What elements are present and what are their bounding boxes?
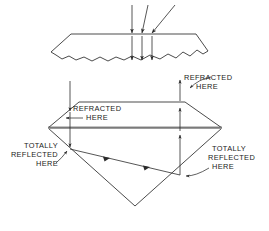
label-totally-reflected-right-line3: HERE: [212, 162, 234, 171]
diamond-refraction-figure: REFRACTED HERE REFRACTED HERE TOTALLY RE…: [0, 0, 269, 231]
rough-incoming-ray-2: [142, 5, 148, 33]
internal-ray-crossing-arrow-1: [103, 157, 110, 162]
label-refracted-left: REFRACTED HERE: [66, 104, 121, 122]
label-totally-reflected-left-line2: REFLECTED: [11, 150, 58, 159]
label-totally-reflected-right: TOTALLY REFLECTED HERE: [186, 144, 255, 176]
cut-diamond-group: [48, 80, 222, 206]
label-refracted-left-line1: REFRACTED: [73, 104, 121, 113]
rough-diamond-group: [51, 5, 208, 61]
label-refracted-right: REFRACTED HERE: [184, 73, 232, 91]
rough-diamond-outline: [51, 34, 208, 61]
optics-diagram: REFRACTED HERE REFRACTED HERE TOTALLY RE…: [0, 0, 269, 231]
label-totally-reflected-left: TOTALLY REFLECTED HERE: [11, 141, 67, 168]
label-totally-reflected-left-line1: TOTALLY: [24, 141, 58, 150]
rough-incoming-ray-3: [152, 5, 175, 33]
pavilion-outline: [48, 128, 222, 206]
label-totally-reflected-right-line1: TOTALLY: [212, 144, 246, 153]
label-totally-reflected-right-line2: REFLECTED: [208, 153, 255, 162]
label-refracted-right-line2: HERE: [196, 82, 218, 91]
leader-totally-reflected-right: [186, 168, 209, 176]
label-refracted-right-line1: REFRACTED: [184, 73, 232, 82]
label-refracted-left-line2: HERE: [86, 113, 108, 122]
label-totally-reflected-left-line3: HERE: [36, 159, 58, 168]
